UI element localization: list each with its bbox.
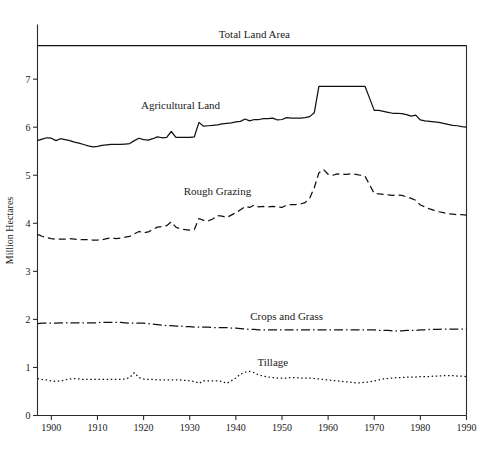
x-tick-label: 1940: [226, 422, 246, 433]
series-line-agricultural-land: [38, 86, 467, 147]
x-tick-label: 1910: [87, 422, 107, 433]
chart-title: Total Land Area: [219, 28, 290, 40]
series-label-agricultural-land: Agricultural Land: [141, 99, 221, 111]
x-tick-label: 1980: [410, 422, 430, 433]
x-tick-label: 1930: [180, 422, 200, 433]
x-tick-label: 1960: [318, 422, 338, 433]
land-area-line-chart: 0123456719001910192019301940195019601970…: [0, 0, 488, 455]
y-tick-label: 6: [26, 122, 31, 133]
series-label-tillage: Tillage: [257, 356, 288, 368]
chart-annotations: Total Land AreaAgricultural LandRough Gr…: [141, 28, 323, 368]
axes: 0123456719001910192019301940195019601970…: [4, 25, 477, 433]
y-tick-label: 4: [26, 218, 31, 229]
x-tick-label: 1990: [457, 422, 477, 433]
series-lines: [38, 46, 467, 384]
chart-figure: 0123456719001910192019301940195019601970…: [0, 0, 488, 455]
x-tick-label: 1970: [364, 422, 384, 433]
y-tick-label: 3: [26, 266, 31, 277]
y-tick-label: 2: [26, 314, 31, 325]
y-tick-label: 0: [26, 410, 31, 421]
axis-spines: [38, 25, 467, 416]
y-tick-label: 7: [26, 74, 31, 85]
x-tick-label: 1920: [134, 422, 154, 433]
series-line-rough-grazing: [38, 169, 467, 240]
y-axis-title: Million Hectares: [4, 197, 15, 265]
x-tick-label: 1900: [41, 422, 61, 433]
y-tick-label: 1: [26, 362, 31, 373]
y-tick-label: 5: [26, 170, 31, 181]
series-label-rough-grazing: Rough Grazing: [184, 185, 252, 197]
series-line-tillage: [38, 371, 467, 383]
x-tick-label: 1950: [272, 422, 292, 433]
series-label-crops-and-grass: Crops and Grass: [250, 310, 323, 322]
series-line-crops-and-grass: [38, 322, 467, 331]
